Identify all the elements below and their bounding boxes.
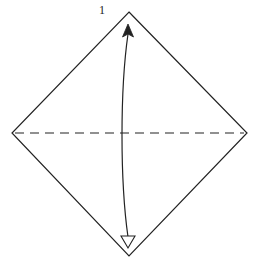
paper-diamond [12, 12, 247, 256]
step-number-label: 1 [99, 4, 105, 16]
diagram-canvas [0, 0, 256, 267]
origami-diagram: 1 [0, 0, 256, 267]
